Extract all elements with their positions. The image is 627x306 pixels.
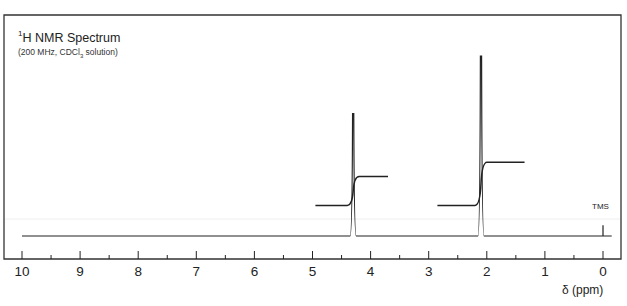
x-axis-label: δ (ppm) bbox=[562, 283, 603, 297]
x-tick-label: 8 bbox=[134, 264, 142, 279]
tms-label: TMS bbox=[592, 202, 609, 211]
integral-curve bbox=[437, 162, 524, 205]
x-tick-label: 1 bbox=[541, 264, 549, 279]
x-tick-label: 10 bbox=[14, 264, 29, 279]
chart-subtitle: (200 MHz, CDCl3 solution) bbox=[18, 47, 118, 59]
x-tick-label: 4 bbox=[367, 264, 375, 279]
chart-title: 1H NMR Spectrum bbox=[18, 30, 120, 45]
nmr-spectrum-plot bbox=[0, 0, 627, 306]
x-tick-label: 7 bbox=[193, 264, 201, 279]
spectrum-trace bbox=[22, 56, 612, 236]
x-tick-label: 5 bbox=[309, 264, 317, 279]
x-tick-label: 0 bbox=[599, 264, 607, 279]
x-tick-label: 9 bbox=[76, 264, 84, 279]
x-tick-label: 3 bbox=[425, 264, 433, 279]
x-tick-label: 2 bbox=[483, 264, 491, 279]
x-tick-label: 6 bbox=[251, 264, 259, 279]
